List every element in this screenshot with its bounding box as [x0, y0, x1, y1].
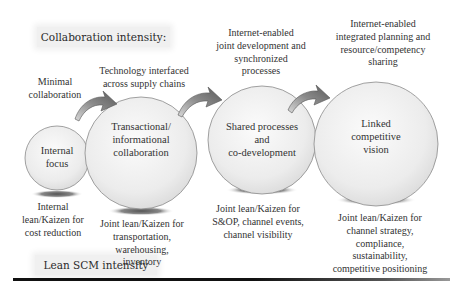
collaboration-text-4: Internet-enabled integrated planning and… [318, 18, 448, 69]
lean-text-2: Joint lean/Kaizen for transportation, wa… [92, 218, 192, 269]
lean-text-3: Joint lean/Kaizen for S&OP, channel even… [198, 203, 318, 241]
lean-text-4: Joint lean/Kaizen for channel strategy, … [318, 212, 442, 276]
circle-label-3: Shared processes and co-development [209, 120, 315, 159]
lean-text-1: Internal lean/Kaizen for cost reduction [8, 201, 98, 239]
circle-label-2: Transactional/ informational collaborati… [91, 120, 191, 159]
circle-label-1: Internal focus [25, 144, 89, 170]
bottom-rule [13, 278, 450, 281]
circle-shadow-1 [31, 190, 83, 198]
collaboration-text-3: Internet-enabled joint development and s… [196, 27, 326, 78]
circle-label-4: Linked competitive vision [326, 117, 426, 156]
collaboration-text-2: Technology interfaced across supply chai… [84, 65, 204, 91]
